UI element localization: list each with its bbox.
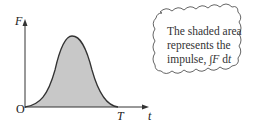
y-axis-arrow-icon bbox=[23, 19, 28, 26]
impulse-text: impulse, bbox=[167, 53, 209, 65]
d-symbol: d bbox=[219, 53, 228, 65]
callout-text: The shaded area represents the impulse, … bbox=[167, 24, 253, 66]
shaded-area bbox=[25, 36, 118, 107]
y-axis-label: F bbox=[15, 15, 22, 27]
callout-line-1: The shaded area bbox=[167, 24, 253, 38]
callout-line-3: impulse, ∫F dt bbox=[167, 52, 253, 66]
end-time-label: T bbox=[117, 110, 124, 122]
origin-label: O bbox=[16, 103, 25, 115]
x-axis-label: t bbox=[148, 110, 151, 122]
t-symbol: t bbox=[228, 53, 231, 65]
callout-line-2: represents the bbox=[167, 38, 253, 52]
